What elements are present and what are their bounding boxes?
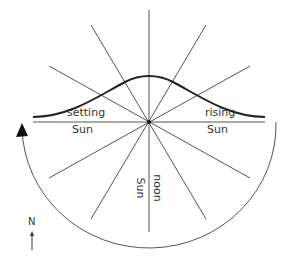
arc-arrowhead-icon xyxy=(16,123,28,137)
rising-sun-label: Sun xyxy=(207,124,228,136)
north-arrow-icon xyxy=(30,231,34,236)
noon-sun-label: Sun xyxy=(134,178,146,199)
noon-label: noon xyxy=(151,174,163,201)
sun-path-diagram: setting Sun rising Sun noon Sun N xyxy=(0,0,302,259)
setting-label: setting xyxy=(67,107,105,119)
north-label: N xyxy=(28,216,35,228)
setting-sun-label: Sun xyxy=(72,124,93,136)
center-point xyxy=(147,120,151,124)
rising-label: rising xyxy=(205,107,235,119)
diagram-canvas xyxy=(0,0,302,259)
